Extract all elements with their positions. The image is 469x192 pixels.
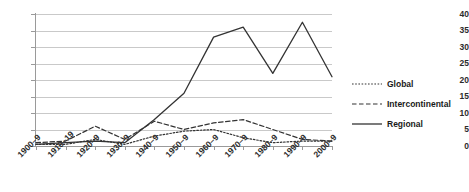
y-axis-tick-mark: [31, 97, 36, 98]
x-axis-tick-mark: [66, 146, 67, 150]
y-axis-tick-mark: [31, 130, 36, 131]
x-axis-tick-mark: [184, 146, 185, 150]
x-axis-tick-mark: [302, 146, 303, 150]
gridline: [36, 130, 332, 131]
y-axis-tick-mark: [31, 113, 36, 114]
x-axis-tick-mark: [36, 146, 37, 150]
y-axis-tick-mark: [31, 31, 36, 32]
y-axis-tick-label: 0: [443, 142, 469, 151]
y-axis-tick-label: 30: [443, 43, 469, 52]
y-axis-tick-label: 25: [443, 59, 469, 68]
gridline: [36, 14, 332, 15]
legend-item-global: Global: [352, 74, 468, 94]
x-axis-tick-mark: [95, 146, 96, 150]
line-chart: 0510152025303540 1900–91910–191920–91930…: [0, 0, 469, 192]
legend-label-intercontinental: Intercontinental: [387, 99, 451, 109]
legend-label-regional: Regional: [387, 119, 423, 129]
gridline: [36, 64, 332, 65]
legend-item-regional: Regional: [352, 114, 468, 134]
y-axis-tick-mark: [31, 64, 36, 65]
x-axis-tick-mark: [243, 146, 244, 150]
plot-area: [36, 14, 332, 146]
x-axis-tick-mark: [332, 146, 333, 150]
gridline: [36, 47, 332, 48]
legend-swatch-regional: [352, 119, 382, 129]
y-axis-tick-mark: [31, 14, 36, 15]
x-axis-tick-mark: [214, 146, 215, 150]
y-axis-tick-label: 35: [443, 26, 469, 35]
y-axis-tick-mark: [31, 47, 36, 48]
legend-item-intercontinental: Intercontinental: [352, 94, 468, 114]
x-axis-tick-mark: [273, 146, 274, 150]
legend-swatch-global: [352, 79, 382, 89]
gridline: [36, 80, 332, 81]
legend-swatch-intercontinental: [352, 99, 382, 109]
x-axis-tick-mark: [125, 146, 126, 150]
legend-label-global: Global: [387, 79, 413, 89]
gridline: [36, 31, 332, 32]
y-axis-tick-mark: [31, 80, 36, 81]
x-axis-tick-mark: [154, 146, 155, 150]
y-axis-tick-label: 40: [443, 10, 469, 19]
gridline: [36, 97, 332, 98]
chart-legend: Global Intercontinental Regional: [352, 74, 468, 134]
gridline: [36, 113, 332, 114]
